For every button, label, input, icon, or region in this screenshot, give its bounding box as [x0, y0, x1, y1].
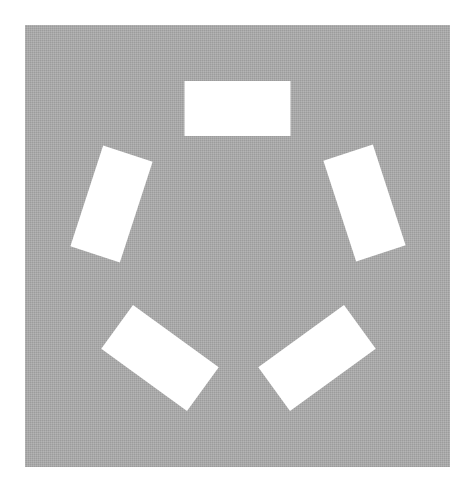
rect-top [185, 81, 291, 136]
diagram-canvas [0, 0, 476, 494]
